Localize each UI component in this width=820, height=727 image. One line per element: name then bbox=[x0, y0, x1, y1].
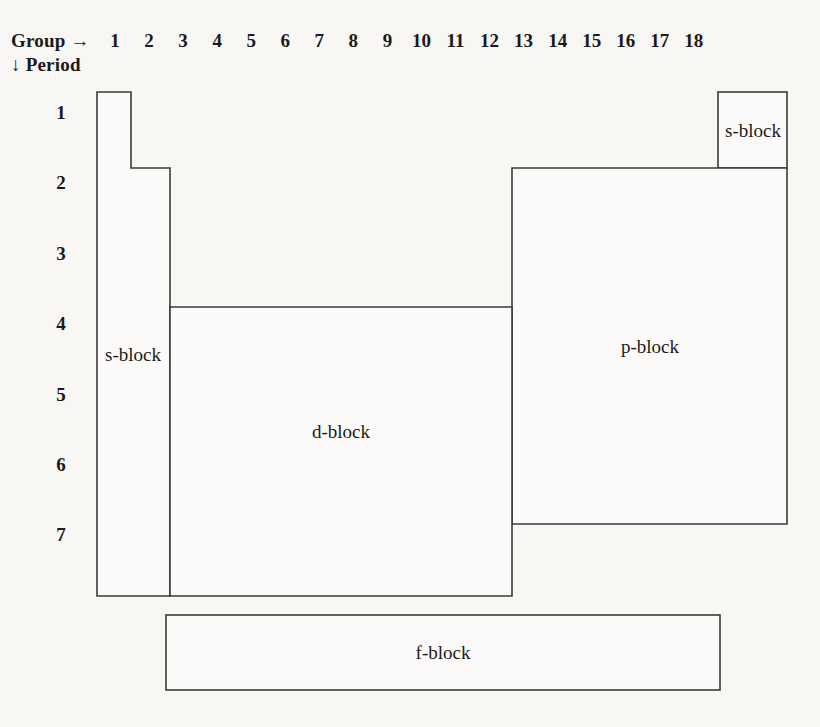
d-block-label: d-block bbox=[312, 421, 370, 443]
p-block-label: p-block bbox=[621, 336, 679, 358]
f-block-label: f-block bbox=[416, 642, 471, 664]
d-block-outline bbox=[170, 307, 512, 596]
s-block-left-label: s-block bbox=[105, 344, 161, 366]
s-block-right-label: s-block bbox=[725, 120, 781, 142]
periodic-table-block-diagram: Group → ↓ Period 12345678910111213141516… bbox=[0, 0, 820, 727]
